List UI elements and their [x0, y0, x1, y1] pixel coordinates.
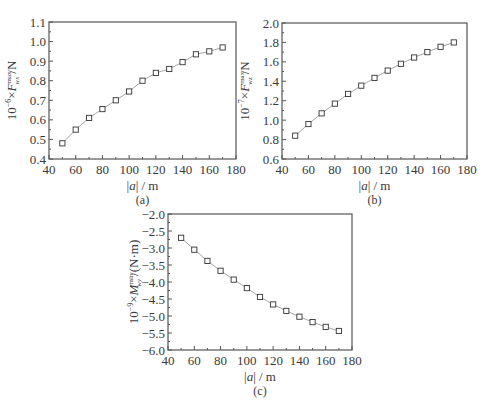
y-tick-label: 1.2	[263, 93, 279, 108]
panel-label: (b)	[368, 193, 382, 207]
data-point-marker	[372, 75, 377, 80]
data-point-marker	[271, 302, 276, 307]
x-tick-label: 60	[188, 353, 201, 368]
y-tick-label: 1.8	[263, 35, 279, 50]
data-point-marker	[220, 45, 225, 50]
y-tick-label: −5.5	[141, 326, 165, 341]
y-tick-label: 0.8	[30, 73, 46, 88]
y-tick-label: 0.5	[30, 132, 46, 147]
x-tick-label: 160	[316, 353, 336, 368]
data-point-marker	[310, 320, 315, 325]
data-point-marker	[207, 49, 212, 54]
data-point-marker	[332, 101, 337, 106]
data-point-marker	[319, 111, 324, 116]
data-point-marker	[359, 83, 364, 88]
y-tick-label: 1.0	[263, 113, 279, 128]
y-tick-label: −3.0	[141, 241, 165, 256]
data-point-marker	[127, 89, 132, 94]
y-tick-label: 0.6	[30, 112, 47, 127]
data-point-marker	[60, 141, 65, 146]
data-series-line	[295, 42, 454, 135]
data-point-marker	[425, 50, 430, 55]
x-tick-label: 140	[404, 162, 424, 177]
x-tick-label: 100	[119, 162, 139, 177]
y-tick-label: −6.0	[141, 343, 165, 358]
data-point-marker	[345, 91, 350, 96]
panel-label: (a)	[136, 193, 149, 207]
panel-label: (c)	[253, 384, 266, 398]
x-tick-label: 120	[263, 353, 283, 368]
x-tick-label: 160	[200, 162, 220, 177]
x-tick-label: 180	[226, 162, 246, 177]
chart-panel-a: 4060801001201401601800.40.50.60.70.80.91…	[4, 15, 246, 208]
y-axis-title: 10−9×Mminwy/(N·m)	[126, 240, 143, 324]
data-point-marker	[140, 78, 145, 83]
data-point-marker	[180, 60, 185, 65]
y-tick-label: 0.6	[263, 152, 280, 167]
figure-canvas: 4060801001201401601800.40.50.60.70.80.91…	[0, 0, 487, 406]
x-tick-label: 100	[237, 353, 257, 368]
data-point-marker	[113, 98, 118, 103]
plot-frame	[49, 22, 236, 159]
data-point-marker	[179, 235, 184, 240]
data-point-marker	[451, 40, 456, 45]
x-tick-label: 160	[431, 162, 451, 177]
x-tick-label: 80	[328, 162, 341, 177]
x-tick-label: 60	[302, 162, 315, 177]
data-point-marker	[257, 294, 262, 299]
y-tick-label: 1.6	[263, 54, 280, 69]
x-axis-title: |a| / m	[244, 369, 276, 384]
y-axis-title: 10−6×Fmaxwx/N	[4, 60, 21, 120]
data-point-marker	[297, 314, 302, 319]
data-point-marker	[244, 286, 249, 291]
data-point-marker	[86, 115, 91, 120]
data-point-marker	[100, 106, 105, 111]
data-point-marker	[193, 52, 198, 57]
y-tick-label: −5.0	[141, 309, 165, 324]
data-point-marker	[153, 70, 158, 75]
x-tick-label: 80	[96, 162, 109, 177]
data-point-marker	[306, 121, 311, 126]
data-point-marker	[167, 66, 172, 71]
y-tick-label: 1.1	[30, 15, 46, 30]
x-tick-label: 100	[352, 162, 372, 177]
y-axis-title: 10−7×Fmaxwz/N	[237, 61, 254, 121]
data-point-marker	[336, 328, 341, 333]
x-axis-title: |a| / m	[127, 178, 159, 193]
data-point-marker	[231, 277, 236, 282]
data-point-marker	[412, 55, 417, 60]
plot-frame	[282, 23, 467, 159]
x-axis-title: |a| / m	[359, 178, 391, 193]
data-point-marker	[192, 247, 197, 252]
y-tick-label: 0.9	[30, 54, 46, 69]
y-tick-label: −3.5	[141, 258, 165, 273]
x-tick-label: 60	[69, 162, 82, 177]
x-tick-label: 180	[342, 353, 362, 368]
data-point-marker	[385, 68, 390, 73]
y-tick-label: 1.0	[30, 34, 46, 49]
y-tick-label: −2.5	[141, 224, 165, 239]
data-point-marker	[323, 324, 328, 329]
x-tick-label: 80	[214, 353, 227, 368]
data-point-marker	[398, 61, 403, 66]
y-tick-label: −2.0	[141, 207, 165, 222]
chart-panel-c: 406080100120140160180−6.0−5.5−5.0−4.5−4.…	[126, 207, 362, 399]
data-series-line	[181, 238, 339, 331]
x-tick-label: 120	[146, 162, 166, 177]
data-point-marker	[284, 308, 289, 313]
y-tick-label: −4.0	[141, 275, 165, 290]
y-tick-label: 1.4	[263, 74, 280, 89]
data-point-marker	[293, 133, 298, 138]
x-tick-label: 180	[457, 162, 477, 177]
data-point-marker	[438, 44, 443, 49]
x-tick-label: 140	[290, 353, 310, 368]
data-point-marker	[218, 268, 223, 273]
y-tick-label: 2.0	[263, 16, 279, 31]
data-point-marker	[205, 258, 210, 263]
x-tick-label: 120	[378, 162, 398, 177]
data-point-marker	[73, 127, 78, 132]
data-series-line	[62, 47, 222, 143]
x-tick-label: 140	[173, 162, 193, 177]
y-tick-label: 0.7	[30, 93, 47, 108]
y-tick-label: 0.8	[263, 132, 279, 147]
